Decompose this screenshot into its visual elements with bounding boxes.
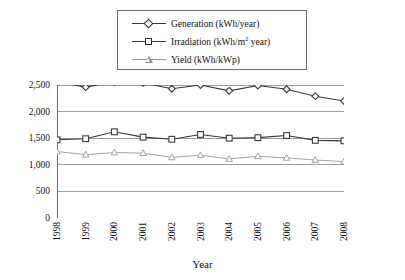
y-tick-label: 2,500 (14, 80, 50, 90)
line-chart: Generation (kWh/year) Irradiation (kWh/m… (0, 0, 405, 280)
data-point-diamond (197, 85, 204, 88)
x-tick-label: 2002 (167, 222, 177, 241)
data-point-square (255, 135, 261, 141)
y-tick-label: 2,000 (14, 107, 50, 117)
legend-label-irradiation-post: year) (248, 37, 270, 47)
y-tick-label: 1,500 (14, 133, 50, 143)
plot-svg (57, 85, 344, 218)
legend-label-irradiation: Irradiation (kWh/m2 year) (171, 37, 270, 48)
data-point-square (284, 133, 290, 139)
data-point-triangle (197, 152, 203, 158)
x-tick-label: 1998 (52, 222, 62, 241)
chart-legend: Generation (kWh/year) Irradiation (kWh/m… (117, 10, 307, 70)
data-point-diamond (226, 87, 233, 94)
x-tick-label: 2007 (310, 222, 320, 241)
data-point-diamond (312, 93, 319, 100)
x-tick-label: 2004 (224, 222, 234, 241)
y-axis-labels: 05001,0001,5002,0002,500 (12, 0, 50, 280)
data-point-triangle (255, 153, 261, 159)
data-point-square (341, 138, 344, 144)
data-point-square (169, 136, 175, 142)
legend-item-generation: Generation (kWh/year) (118, 15, 306, 33)
series-layer (57, 85, 344, 164)
data-point-triangle (111, 149, 117, 155)
legend-item-yield: Yield (kWh/kWp) (118, 51, 306, 69)
y-tick-label: 1,000 (14, 160, 50, 170)
data-point-diamond (82, 85, 89, 91)
legend-symbol-generation (132, 17, 166, 31)
legend-label-generation: Generation (kWh/year) (171, 19, 259, 30)
legend-symbol-yield (132, 53, 166, 67)
plot-area (57, 85, 344, 218)
x-axis-title: Year (0, 258, 405, 270)
data-point-square (112, 129, 118, 135)
x-tick-label: 2006 (282, 222, 292, 241)
x-tick-label: 2000 (109, 222, 119, 241)
data-point-triangle (57, 148, 60, 154)
x-tick-label: 1999 (81, 222, 91, 241)
legend-symbol-irradiation (132, 35, 166, 49)
legend-item-irradiation: Irradiation (kWh/m2 year) (118, 33, 306, 51)
data-point-square (312, 137, 318, 143)
x-axis-labels: 1998199920002001200220032004200520062007… (57, 222, 344, 256)
data-point-diamond (168, 85, 175, 92)
data-point-square (140, 134, 146, 140)
data-point-square (226, 135, 232, 141)
x-tick-label: 2008 (339, 222, 349, 241)
y-tick-label: 500 (14, 186, 50, 196)
x-tick-label: 2005 (253, 222, 263, 241)
legend-label-yield: Yield (kWh/kWp) (171, 55, 240, 66)
data-point-square (198, 132, 204, 138)
legend-label-irradiation-pre: Irradiation (kWh/m (171, 37, 245, 47)
x-tick-label: 2003 (196, 222, 206, 241)
data-point-diamond (255, 85, 262, 89)
data-point-square (57, 137, 60, 143)
data-point-square (83, 136, 89, 142)
data-point-diamond (341, 98, 344, 105)
data-point-triangle (140, 150, 146, 156)
y-tick-label: 0 (14, 213, 50, 223)
data-point-diamond (283, 86, 290, 93)
x-tick-label: 2001 (138, 222, 148, 241)
